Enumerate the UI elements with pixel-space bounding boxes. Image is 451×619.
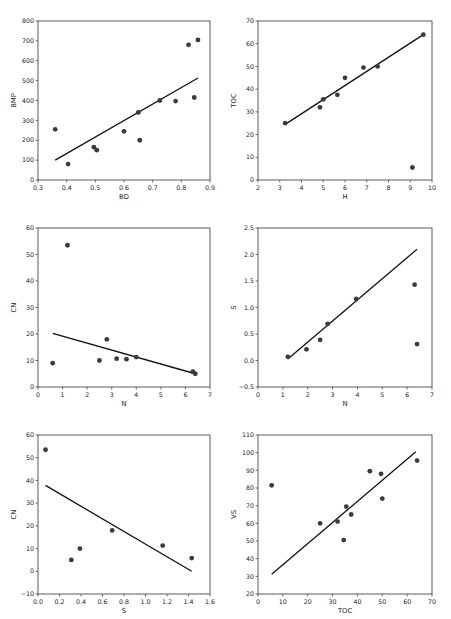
data-point bbox=[318, 521, 323, 526]
x-tick-label: 10 bbox=[428, 184, 436, 191]
y-tick-label: 40 bbox=[26, 477, 34, 484]
data-point bbox=[69, 558, 74, 563]
y-tick-label: 60 bbox=[246, 40, 254, 47]
x-tick-label: 5 bbox=[321, 184, 325, 191]
data-point bbox=[65, 243, 70, 248]
x-tick-label: 8 bbox=[386, 184, 390, 191]
plot-frame bbox=[38, 228, 210, 387]
data-point bbox=[375, 64, 380, 69]
data-point bbox=[189, 556, 194, 561]
y-tick-label: 20 bbox=[26, 522, 34, 529]
y-tick-label: 2.5 bbox=[244, 224, 254, 231]
x-tick-label: 3 bbox=[278, 184, 282, 191]
x-tick-label: 0.9 bbox=[205, 184, 215, 191]
x-tick-label: 0 bbox=[256, 391, 260, 398]
x-tick-label: 1.2 bbox=[162, 598, 172, 605]
x-tick-label: 0.7 bbox=[148, 184, 158, 191]
plot-frame bbox=[258, 21, 432, 180]
y-tick-label: 70 bbox=[246, 502, 254, 509]
data-point bbox=[283, 121, 288, 126]
x-tick-label: 30 bbox=[329, 598, 337, 605]
plot-frame bbox=[258, 228, 432, 387]
scatter-panel-cn-vs-s: 0.00.20.40.60.81.01.21.41.6−100102030405… bbox=[10, 431, 215, 615]
data-point bbox=[325, 322, 330, 327]
y-tick-label: 50 bbox=[26, 454, 34, 461]
x-tick-label: 0.5 bbox=[90, 184, 100, 191]
plot-frame bbox=[38, 435, 210, 594]
y-tick-label: 100 bbox=[22, 156, 34, 163]
y-tick-label: 20 bbox=[26, 330, 34, 337]
scatter-panel-bmp-vs-bd: 0.30.40.50.60.70.80.90100200300400500600… bbox=[10, 17, 215, 201]
x-tick-label: 1 bbox=[61, 391, 65, 398]
y-tick-label: 300 bbox=[22, 117, 34, 124]
figure-canvas: 0.30.40.50.60.70.80.90100200300400500600… bbox=[0, 0, 451, 619]
regression-line bbox=[288, 249, 417, 359]
scatter-panel-s-vs-n: 01234567−0.50.00.51.01.52.02.5NS bbox=[230, 224, 434, 408]
x-tick-label: 20 bbox=[304, 598, 312, 605]
x-tick-label: 0.6 bbox=[97, 598, 107, 605]
y-tick-label: 30 bbox=[26, 499, 34, 506]
y-tick-label: 60 bbox=[246, 520, 254, 527]
y-tick-label: 400 bbox=[22, 97, 34, 104]
data-point bbox=[415, 342, 420, 347]
data-point bbox=[110, 528, 115, 533]
data-point bbox=[285, 354, 290, 359]
data-point bbox=[97, 358, 102, 363]
y-axis-label: TOC bbox=[230, 93, 238, 109]
x-tick-label: 60 bbox=[403, 598, 411, 605]
regression-line bbox=[53, 333, 196, 373]
data-point bbox=[104, 337, 109, 342]
y-tick-label: 0.5 bbox=[244, 330, 254, 337]
plot-frame bbox=[258, 435, 432, 594]
y-tick-label: 800 bbox=[22, 17, 34, 24]
data-point bbox=[124, 357, 129, 362]
x-tick-label: 1.6 bbox=[205, 598, 215, 605]
y-tick-label: −0.5 bbox=[239, 383, 254, 390]
x-axis-label: H bbox=[342, 193, 347, 201]
x-tick-label: 0.4 bbox=[62, 184, 72, 191]
x-tick-label: 0.0 bbox=[33, 598, 43, 605]
data-point bbox=[318, 337, 323, 342]
data-point bbox=[137, 138, 142, 143]
x-tick-label: 4 bbox=[355, 391, 359, 398]
data-point bbox=[157, 98, 162, 103]
data-point bbox=[78, 546, 83, 551]
x-tick-label: 3 bbox=[110, 391, 114, 398]
y-tick-label: 50 bbox=[26, 251, 34, 258]
y-tick-label: 50 bbox=[246, 63, 254, 70]
y-tick-label: 2.0 bbox=[244, 251, 254, 258]
x-tick-label: 7 bbox=[208, 391, 212, 398]
x-tick-label: 0.6 bbox=[119, 184, 129, 191]
data-point bbox=[122, 129, 127, 134]
data-point bbox=[269, 483, 274, 488]
data-point bbox=[173, 99, 178, 104]
y-axis-label: S bbox=[230, 305, 238, 309]
data-point bbox=[304, 347, 309, 352]
y-tick-label: 0 bbox=[30, 176, 34, 183]
data-point bbox=[349, 512, 354, 517]
scatter-panel-cn-vs-n: 012345670102030405060NCN bbox=[10, 224, 212, 408]
x-tick-label: 5 bbox=[159, 391, 163, 398]
data-point bbox=[354, 297, 359, 302]
x-tick-label: 2 bbox=[306, 391, 310, 398]
y-axis-label: CN bbox=[10, 510, 18, 520]
y-axis-label: CN bbox=[10, 303, 18, 313]
scatter-plot-grid: 0.30.40.50.60.70.80.90100200300400500600… bbox=[0, 0, 451, 619]
y-tick-label: 200 bbox=[22, 136, 34, 143]
plot-frame bbox=[38, 21, 210, 180]
x-tick-label: 0.4 bbox=[76, 598, 86, 605]
data-point bbox=[94, 148, 99, 153]
y-tick-label: 30 bbox=[246, 573, 254, 580]
x-tick-label: 7 bbox=[365, 184, 369, 191]
y-tick-label: 20 bbox=[246, 131, 254, 138]
scatter-panel-vs-vs-toc: 0102030405060702030405060708090100110TOC… bbox=[230, 431, 436, 615]
data-point bbox=[66, 162, 71, 167]
y-tick-label: 20 bbox=[246, 590, 254, 597]
data-point bbox=[318, 105, 323, 110]
x-tick-label: 9 bbox=[408, 184, 412, 191]
x-tick-label: 0.8 bbox=[176, 184, 186, 191]
y-tick-label: 70 bbox=[246, 17, 254, 24]
x-tick-label: 2 bbox=[256, 184, 260, 191]
x-tick-label: 50 bbox=[378, 598, 386, 605]
y-tick-label: 10 bbox=[26, 545, 34, 552]
